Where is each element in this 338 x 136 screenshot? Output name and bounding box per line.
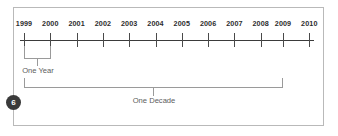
year-label-2000: 2000 (42, 19, 58, 28)
year-label-2002: 2002 (95, 19, 111, 28)
timeline-axis (20, 40, 314, 41)
year-label-2009: 2009 (275, 19, 291, 28)
axis-tick (208, 33, 209, 47)
one-year-label: One Year (22, 66, 54, 75)
axis-tick (156, 33, 157, 47)
figure-number-badge: 6 (6, 95, 21, 110)
year-label-2008: 2008 (252, 19, 268, 28)
year-label-2003: 2003 (121, 19, 137, 28)
year-label-2001: 2001 (68, 19, 84, 28)
year-label-2010: 2010 (301, 19, 317, 28)
one-decade-bracket-stem (153, 88, 154, 96)
axis-tick (24, 33, 25, 47)
one-decade-label: One Decade (133, 96, 176, 105)
year-label-2007: 2007 (226, 19, 242, 28)
axis-tick (234, 33, 235, 47)
axis-tick (77, 33, 78, 47)
year-label-1999: 1999 (16, 19, 32, 28)
axis-tick (103, 33, 104, 47)
one-year-bracket-stem (37, 59, 38, 66)
one-year-bracket (24, 46, 51, 59)
axis-tick (182, 33, 183, 47)
year-label-2004: 2004 (147, 19, 163, 28)
year-label-2005: 2005 (174, 19, 190, 28)
axis-tick (283, 33, 284, 47)
axis-tick (261, 33, 262, 47)
axis-tick (129, 33, 130, 47)
year-label-2006: 2006 (200, 19, 216, 28)
timeline-figure: 1999 2000 2001 2002 2003 2004 2005 2006 … (0, 0, 338, 136)
one-decade-bracket (24, 78, 283, 88)
axis-tick (50, 33, 51, 47)
axis-tick (309, 33, 310, 47)
